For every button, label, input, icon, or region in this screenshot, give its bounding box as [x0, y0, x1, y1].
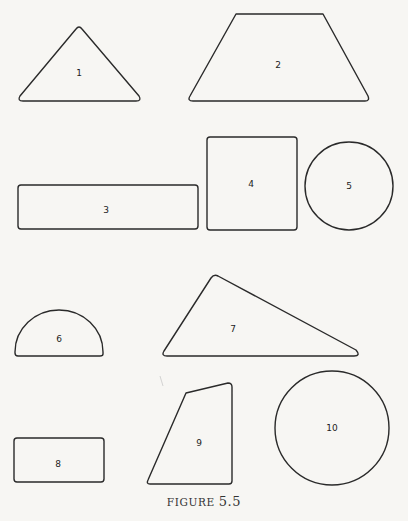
shape-1-label: 1: [76, 68, 82, 78]
shape-8-label: 8: [55, 459, 61, 469]
shape-2-label: 2: [275, 60, 281, 70]
shape-9-quadrilateral: 9: [147, 383, 232, 484]
caption-number: 5.5: [219, 494, 241, 509]
shape-3-label: 3: [103, 205, 109, 215]
stray-mark: [160, 376, 163, 386]
shape-4-square: 4: [207, 137, 297, 230]
shape-6-semicircle: 6: [15, 310, 103, 356]
figure-caption: FIGURE 5.5: [0, 494, 408, 509]
shape-10-label: 10: [326, 423, 338, 433]
caption-prefix: FIGURE: [167, 496, 215, 508]
shape-6-label: 6: [56, 334, 62, 344]
shape-5-label: 5: [346, 181, 352, 191]
shape-9-label: 9: [196, 438, 202, 448]
shape-7-label: 7: [230, 324, 236, 334]
shape-8-rectangle: 8: [14, 438, 104, 482]
shape-7-triangle: 7: [163, 275, 358, 356]
geometric-shapes-figure: 1 2 3 4 5 6 7: [0, 0, 408, 521]
shape-4-label: 4: [248, 179, 254, 189]
shape-10-circle: 10: [275, 371, 389, 485]
shape-2-trapezoid: 2: [189, 14, 369, 101]
shape-5-circle: 5: [305, 142, 393, 230]
figure-page: 1 2 3 4 5 6 7: [0, 0, 408, 521]
shape-1-triangle: 1: [19, 27, 140, 101]
shape-3-rectangle: 3: [18, 185, 198, 229]
